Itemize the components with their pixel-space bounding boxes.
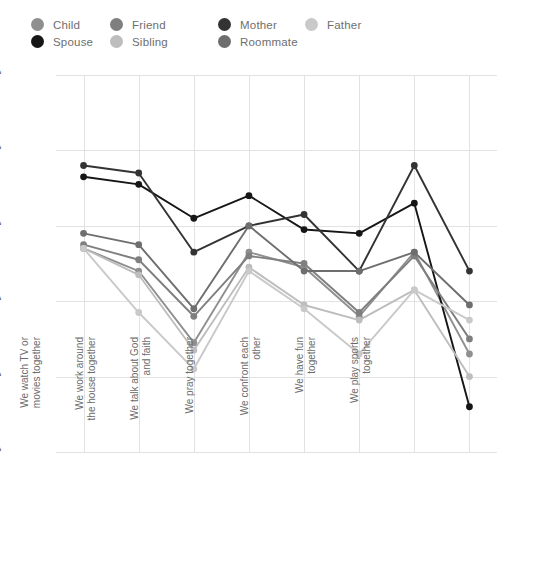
data-point-mother[interactable]	[135, 170, 142, 177]
data-point-mother[interactable]	[80, 162, 87, 169]
x-axis-label-2: We work aroundthe house together	[74, 337, 98, 462]
legend-item-father[interactable]: Father	[305, 18, 361, 31]
legend-item-label: Spouse	[53, 36, 93, 48]
data-point-father[interactable]	[135, 309, 142, 316]
data-point-father[interactable]	[466, 317, 473, 324]
data-point-child[interactable]	[466, 351, 473, 358]
legend-item-label: Friend	[132, 19, 166, 31]
data-point-mother[interactable]	[190, 249, 197, 256]
data-point-roommate[interactable]	[301, 268, 308, 275]
data-point-roommate[interactable]	[356, 268, 363, 275]
x-axis-label-line2: and faith	[141, 337, 153, 462]
legend-swatch-icon	[110, 35, 123, 48]
data-point-friend[interactable]	[301, 260, 308, 267]
x-axis-label-line1: We play sports	[349, 337, 361, 462]
data-point-spouse[interactable]	[246, 192, 253, 199]
data-point-sibling[interactable]	[466, 373, 473, 380]
data-point-friend[interactable]	[246, 253, 253, 260]
data-point-mother[interactable]	[301, 211, 308, 218]
data-point-spouse[interactable]	[466, 403, 473, 410]
x-axis-label-line1: We confront each	[239, 337, 251, 462]
x-axis-label-7: We play sportstogether	[349, 337, 373, 462]
legend-item-spouse[interactable]: Spouse	[31, 35, 93, 48]
y-axis-tick-label: 80%	[0, 145, 1, 156]
data-point-mother[interactable]	[466, 268, 473, 275]
y-axis-tick-label: 100%	[0, 69, 1, 80]
x-axis-label-line1: We have fun	[294, 337, 306, 462]
legend-swatch-icon	[305, 18, 318, 31]
legend-swatch-icon	[31, 18, 44, 31]
data-point-father[interactable]	[80, 245, 87, 252]
legend-swatch-icon	[110, 18, 123, 31]
legend-swatch-icon	[218, 35, 231, 48]
data-point-roommate[interactable]	[466, 302, 473, 309]
x-axis-label-3: We talk about Godand faith	[129, 337, 153, 462]
legend-swatch-icon	[218, 18, 231, 31]
data-point-sibling[interactable]	[135, 271, 142, 278]
x-axis-label-line2: the house together	[86, 337, 98, 462]
data-point-spouse[interactable]	[356, 230, 363, 237]
series-lines-layer	[56, 75, 497, 452]
data-point-friend[interactable]	[356, 309, 363, 316]
data-point-roommate[interactable]	[135, 241, 142, 248]
legend-item-label: Child	[53, 19, 80, 31]
series-line-roommate	[84, 226, 470, 309]
data-point-roommate[interactable]	[80, 230, 87, 237]
data-point-roommate[interactable]	[411, 249, 418, 256]
x-axis-labels: We eat mealstogetherWe watch TV ormovies…	[56, 452, 497, 586]
y-axis-tick-label: 20%	[0, 371, 1, 382]
legend-item-label: Father	[327, 19, 361, 31]
x-axis-label-5: We confront eachother	[239, 337, 263, 462]
chart-legend: ChildSpouseFriendSiblingMotherRoommateFa…	[0, 0, 545, 60]
data-point-friend[interactable]	[135, 256, 142, 263]
y-axis-tick-label: 60%	[0, 220, 1, 231]
x-axis-label-line2: movies together	[31, 337, 43, 462]
legend-item-friend[interactable]: Friend	[110, 18, 166, 31]
x-axis-label-line1: We talk about God	[129, 337, 141, 462]
x-axis-label-1: We watch TV ormovies together	[19, 337, 43, 462]
x-axis-label-line2: together	[306, 337, 318, 462]
data-point-spouse[interactable]	[411, 200, 418, 207]
legend-item-label: Roommate	[240, 36, 298, 48]
data-point-friend[interactable]	[190, 313, 197, 320]
legend-item-child[interactable]: Child	[31, 18, 80, 31]
data-point-father[interactable]	[301, 305, 308, 312]
y-axis-tick-label: 0%	[0, 446, 1, 457]
y-axis-tick-label: 40%	[0, 296, 1, 307]
data-point-spouse[interactable]	[301, 226, 308, 233]
data-point-spouse[interactable]	[135, 181, 142, 188]
data-point-father[interactable]	[246, 268, 253, 275]
data-point-spouse[interactable]	[80, 173, 87, 180]
line-chart: 0%20%40%60%80%100% We eat mealstogetherW…	[0, 60, 545, 586]
legend-swatch-icon	[31, 35, 44, 48]
data-point-roommate[interactable]	[190, 305, 197, 312]
x-axis-label-4: We pray together	[184, 337, 196, 462]
data-point-friend[interactable]	[466, 336, 473, 343]
x-axis-label-line1: We pray together	[184, 337, 196, 462]
data-point-father[interactable]	[411, 286, 418, 293]
data-point-spouse[interactable]	[190, 215, 197, 222]
legend-item-label: Sibling	[132, 36, 168, 48]
x-axis-label-line2: other	[251, 337, 263, 462]
legend-item-mother[interactable]: Mother	[218, 18, 277, 31]
legend-item-roommate[interactable]: Roommate	[218, 35, 298, 48]
data-point-sibling[interactable]	[356, 317, 363, 324]
data-point-mother[interactable]	[411, 162, 418, 169]
legend-item-sibling[interactable]: Sibling	[110, 35, 168, 48]
x-axis-label-6: We have funtogether	[294, 337, 318, 462]
legend-item-label: Mother	[240, 19, 277, 31]
x-axis-label-line1: We work around	[74, 337, 86, 462]
data-point-roommate[interactable]	[246, 222, 253, 229]
x-axis-label-line2: together	[361, 337, 373, 462]
x-axis-label-line1: We watch TV or	[19, 337, 31, 462]
